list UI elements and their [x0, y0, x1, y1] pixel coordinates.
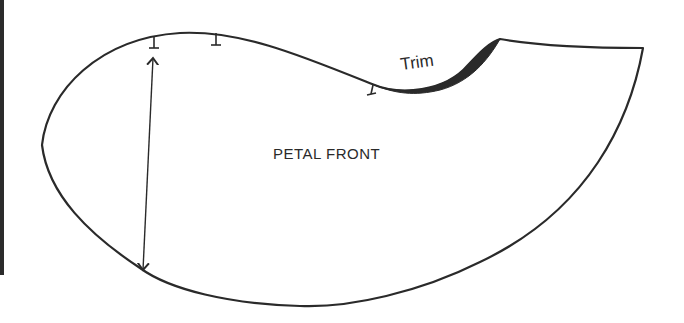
piece-name-label: PETAL FRONT: [273, 145, 380, 162]
grainline-arrow: [143, 58, 153, 270]
pattern-diagram: PETAL FRONT Trim: [0, 0, 684, 323]
pattern-outline: [42, 33, 643, 306]
tick-marks: [149, 33, 376, 95]
